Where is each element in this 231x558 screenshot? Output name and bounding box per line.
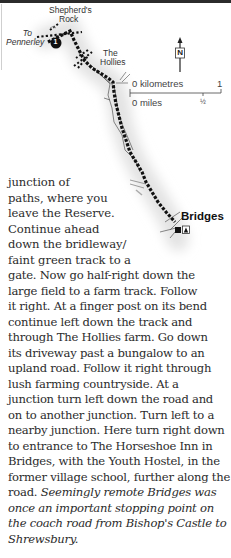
italic-note-line: once an important stopping point on bbox=[8, 501, 230, 517]
text-line: Bridges, with the Youth Hostel, in the bbox=[8, 454, 230, 470]
shepherds-rock-label: Shepherd's Rock bbox=[49, 6, 92, 24]
text-line: it right. At a finger post on its bend bbox=[8, 299, 230, 315]
to-pennerley-label: To Pennerley bbox=[10, 29, 40, 47]
text-line: faint green track to a bbox=[8, 253, 138, 269]
pub-icon bbox=[175, 227, 181, 233]
text-line: upland road. Follow it right through bbox=[8, 361, 230, 377]
the-hollies-label: The Hollies bbox=[100, 49, 126, 67]
text-line: gate. Now go half-right down the bbox=[8, 268, 230, 284]
directions-text-narrow: junction of paths, where you leave the R… bbox=[8, 175, 138, 268]
text-line: down the bridleway/ bbox=[8, 237, 138, 253]
text-line: through The Hollies farm. Go down bbox=[8, 330, 230, 346]
italic-note-line: the coach road from Bishop's Castle to bbox=[8, 516, 230, 532]
text-line: former village school, further along the bbox=[8, 470, 230, 486]
waypoint-number: 1 bbox=[54, 38, 58, 45]
scale-km-label: 0 kilometres bbox=[132, 78, 183, 89]
text-line: paths, where you bbox=[8, 191, 138, 207]
text-line: junction turn left down the road and bbox=[8, 392, 230, 408]
text-line: junction of bbox=[8, 175, 138, 191]
bridges-label: Bridges bbox=[181, 210, 224, 222]
scale-km-end: 1 bbox=[217, 78, 222, 89]
text-line: continue left down the track and bbox=[8, 315, 230, 331]
text-line: Continue ahead bbox=[8, 222, 138, 238]
text-line: lush farming countryside. At a bbox=[8, 377, 230, 393]
scale-miles-label: 0 miles bbox=[132, 97, 162, 108]
text-line: nearby junction. Here turn right down bbox=[8, 423, 230, 439]
text-line: large field to a farm track. Follow bbox=[8, 284, 230, 300]
italic-note-line: Shrewsbury. bbox=[8, 532, 230, 548]
north-arrow-head bbox=[178, 37, 183, 43]
text-line: leave the Reserve. bbox=[8, 206, 138, 222]
text-line: to entrance to The Horseshoe Inn in bbox=[8, 439, 230, 455]
text-line: its driveway past a bungalow to an bbox=[8, 346, 230, 362]
text-line: on to another junction. Turn left to a bbox=[8, 408, 230, 424]
scale-miles-half: ½ bbox=[200, 98, 206, 105]
north-letter: N bbox=[177, 48, 183, 57]
directions-text-wide: gate. Now go half-right down the large f… bbox=[8, 268, 230, 547]
italic-note: Seemingly remote Bridges was bbox=[41, 485, 217, 499]
text-line-mixed: road. Seemingly remote Bridges was bbox=[8, 485, 230, 501]
